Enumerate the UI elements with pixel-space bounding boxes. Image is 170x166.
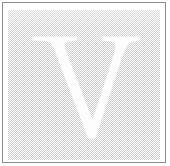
gray-tint-field <box>8 10 160 160</box>
drop-cap-plate: V <box>0 0 170 166</box>
tint-haze-overlay <box>8 10 160 160</box>
